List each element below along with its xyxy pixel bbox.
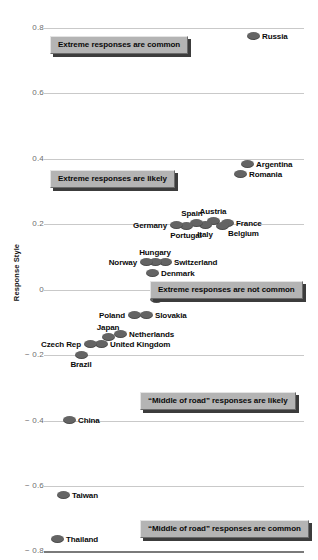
data-point-argentina — [241, 160, 254, 168]
gridline-0.8 — [44, 28, 304, 29]
annotation-extreme-not-common: Extreme responses are not common — [150, 281, 303, 299]
data-label-austria: Austria — [200, 207, 227, 216]
y-tick-label-7: − 0.6 — [8, 481, 44, 490]
y-tick-label-8: − 0.8 — [8, 546, 44, 555]
data-label-switzerland: Switzerland — [174, 258, 217, 267]
data-label-portugal: Portugal — [170, 231, 202, 240]
data-point-slovakia — [140, 311, 153, 319]
data-label-united-kingdom: United Kingdom — [110, 340, 170, 349]
axis-line-bottom — [44, 551, 304, 553]
gridline-0.6 — [44, 93, 304, 94]
data-label-france: France — [236, 219, 262, 228]
data-label-brazil: Brazil — [70, 360, 91, 369]
data-point-thailand — [51, 535, 64, 543]
data-label-taiwan: Taiwan — [72, 491, 98, 500]
data-label-netherlands: Netherlands — [129, 330, 174, 339]
y-tick-label-0: 0.8 — [8, 23, 44, 32]
data-label-argentina: Argentina — [256, 160, 292, 169]
data-point-norway — [140, 258, 153, 266]
data-label-romania: Romania — [249, 170, 282, 179]
data-point-denmark — [146, 269, 159, 277]
y-tick-label-5: − 0.2 — [8, 350, 44, 359]
annotation-middle-likely: “Middle of road” responses are likely — [140, 392, 296, 410]
data-point-china — [63, 416, 76, 424]
data-label-czech-rep: Czech Rep — [41, 340, 81, 349]
data-point-taiwan — [57, 491, 70, 499]
data-label-china: China — [78, 416, 100, 425]
data-point-czech-rep — [84, 340, 97, 348]
data-label-germany: Germany — [133, 221, 167, 230]
data-label-belgium: Belgium — [228, 229, 259, 238]
data-label-russia: Russia — [262, 32, 288, 41]
data-label-thailand: Thailand — [66, 535, 98, 544]
data-label-norway: Norway — [109, 258, 137, 267]
data-label-hungary: Hungary — [139, 248, 171, 257]
y-tick-label-1: 0.6 — [8, 88, 44, 97]
data-label-spain: Spain — [181, 209, 202, 218]
data-point-germany — [170, 221, 183, 229]
annotation-middle-common: “Middle of road” responses are common — [140, 520, 309, 538]
data-point-russia — [247, 32, 260, 40]
y-axis-title: Response Style — [12, 233, 21, 313]
y-tick-label-2: 0.4 — [8, 154, 44, 163]
gridline--0.6 — [44, 486, 304, 487]
data-point-brazil — [75, 351, 88, 359]
data-label-denmark: Denmark — [161, 269, 195, 278]
data-label-poland: Poland — [99, 311, 125, 320]
data-point-romania — [234, 170, 247, 178]
annotation-extreme-common: Extreme responses are common — [50, 36, 188, 54]
response-style-scatter-chart: 0.8 0.6 0.4 0.2 0 − 0.2 − 0.4 − 0.6 − 0.… — [0, 0, 318, 560]
y-tick-label-6: − 0.4 — [8, 416, 44, 425]
annotation-extreme-likely: Extreme responses are likely — [50, 170, 175, 188]
data-point-poland — [128, 311, 141, 319]
y-tick-label-3: 0.2 — [8, 219, 44, 228]
data-label-japan: Japan — [97, 323, 120, 332]
data-label-slovakia: Slovakia — [155, 311, 187, 320]
plot-area: 0.8 0.6 0.4 0.2 0 − 0.2 − 0.4 − 0.6 − 0.… — [0, 0, 318, 560]
